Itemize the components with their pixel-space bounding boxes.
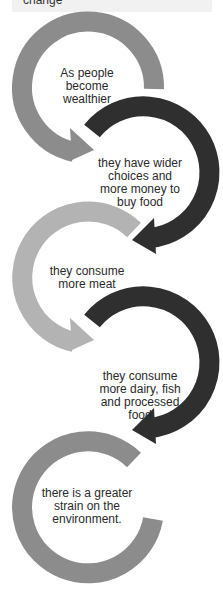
step-3-text: they consume more meat [37, 265, 137, 291]
step-2-text: they have wider choices and more money t… [90, 157, 190, 209]
step-4-text: they consume more dairy, fish and proces… [88, 370, 192, 422]
step-5-text: there is a greater strain on the environ… [37, 487, 137, 526]
step-1-text: As people become wealthier [37, 67, 137, 106]
